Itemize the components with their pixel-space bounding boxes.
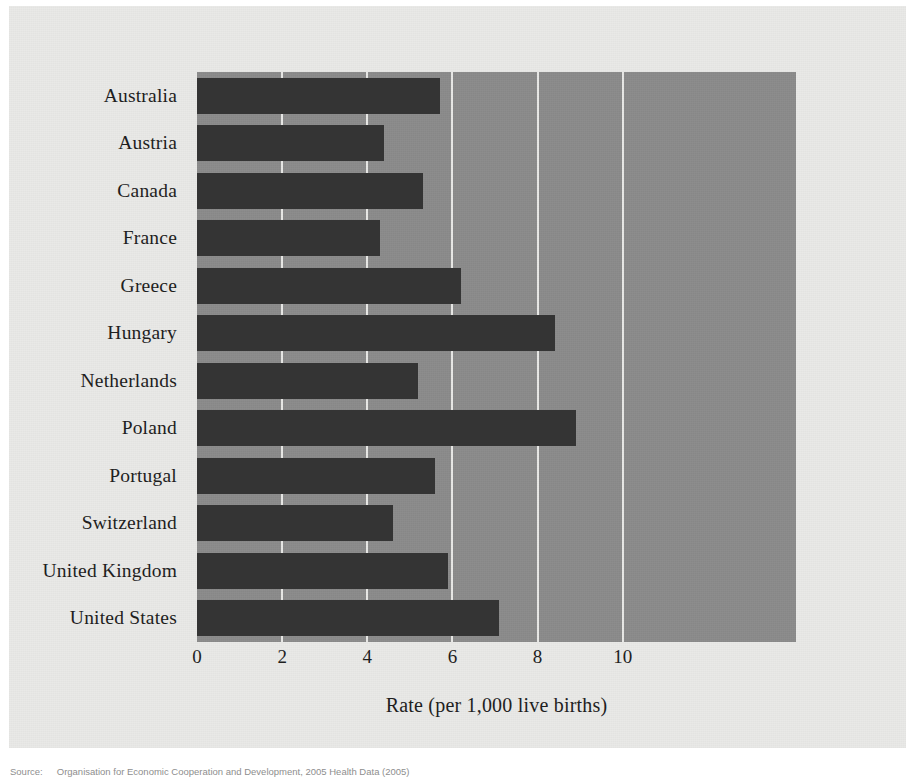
bar-row xyxy=(197,72,796,120)
y-axis-label-poland: Poland xyxy=(9,405,189,453)
bar-row xyxy=(197,310,796,358)
bar-row xyxy=(197,595,796,643)
x-tick-label-4: 4 xyxy=(363,646,373,668)
y-axis-label-united-states: United States xyxy=(9,595,189,643)
bar-row xyxy=(197,500,796,548)
y-axis-label-australia: Australia xyxy=(9,72,189,120)
y-axis-label-hungary: Hungary xyxy=(9,310,189,358)
y-axis-labels: AustraliaAustriaCanadaFranceGreeceHungar… xyxy=(9,72,189,642)
bar-switzerland xyxy=(197,505,393,541)
bar-series xyxy=(197,72,796,642)
y-axis-label-netherlands: Netherlands xyxy=(9,357,189,405)
bar-row xyxy=(197,120,796,168)
x-tick-label-10: 10 xyxy=(613,646,632,668)
x-tick-label-8: 8 xyxy=(533,646,543,668)
bar-row xyxy=(197,262,796,310)
bar-row xyxy=(197,452,796,500)
bar-poland xyxy=(197,410,576,446)
bar-france xyxy=(197,220,380,256)
bar-united-kingdom xyxy=(197,553,448,589)
x-tick-label-6: 6 xyxy=(448,646,458,668)
bar-row xyxy=(197,167,796,215)
bar-portugal xyxy=(197,458,435,494)
bar-hungary xyxy=(197,315,555,351)
bar-united-states xyxy=(197,600,499,636)
bar-netherlands xyxy=(197,363,418,399)
x-axis-title: Rate (per 1,000 live births) xyxy=(197,694,796,717)
y-axis-label-france: France xyxy=(9,215,189,263)
bar-row xyxy=(197,215,796,263)
y-axis-label-switzerland: Switzerland xyxy=(9,500,189,548)
bar-row xyxy=(197,405,796,453)
y-axis-label-austria: Austria xyxy=(9,120,189,168)
source-note: Source:Organisation for Economic Coopera… xyxy=(10,766,890,777)
bar-chart-plot-area xyxy=(197,72,796,642)
bar-row xyxy=(197,357,796,405)
x-axis-tick-labels: 0246810 xyxy=(197,646,796,672)
y-axis-label-portugal: Portugal xyxy=(9,452,189,500)
y-axis-label-united-kingdom: United Kingdom xyxy=(9,547,189,595)
y-axis-label-canada: Canada xyxy=(9,167,189,215)
x-tick-label-0: 0 xyxy=(192,646,202,668)
bar-austria xyxy=(197,125,384,161)
y-axis-label-greece: Greece xyxy=(9,262,189,310)
bar-canada xyxy=(197,173,423,209)
bar-row xyxy=(197,547,796,595)
bar-australia xyxy=(197,78,440,114)
source-label: Source: xyxy=(10,766,43,777)
figure-panel: AustraliaAustriaCanadaFranceGreeceHungar… xyxy=(9,6,906,748)
figure-page: AustraliaAustriaCanadaFranceGreeceHungar… xyxy=(0,0,915,781)
source-text: Organisation for Economic Cooperation an… xyxy=(57,766,410,777)
bar-greece xyxy=(197,268,461,304)
x-tick-label-2: 2 xyxy=(277,646,287,668)
